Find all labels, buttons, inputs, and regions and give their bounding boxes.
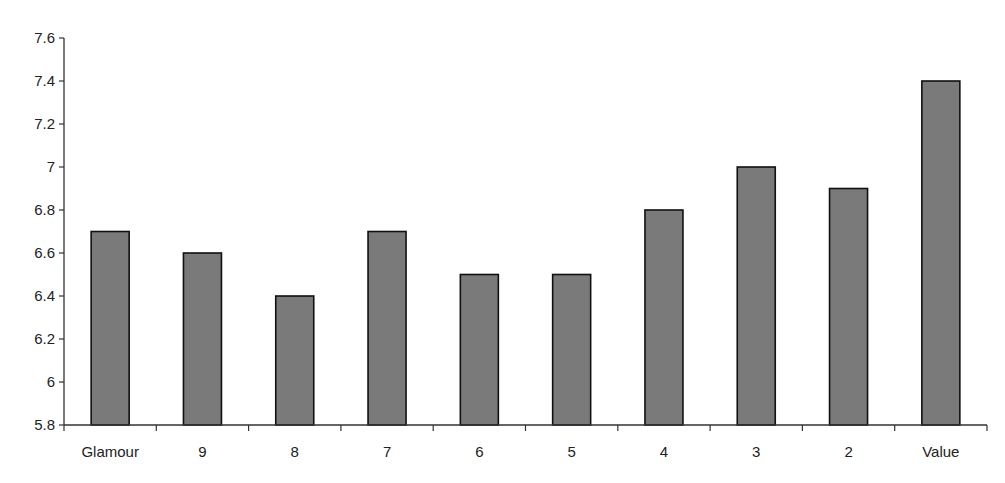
x-tick-label: 9	[198, 443, 206, 460]
bar-value	[922, 81, 960, 425]
bar-6	[460, 275, 498, 426]
x-axis-ticks: Glamour98765432Value	[64, 425, 987, 460]
y-tick-label: 6.8	[34, 201, 55, 218]
y-tick-label: 6	[47, 373, 55, 390]
y-tick-label: 5.8	[34, 416, 55, 433]
y-tick-label: 7.6	[34, 29, 55, 46]
bar-5	[553, 275, 591, 426]
x-tick-label: Glamour	[81, 443, 139, 460]
y-tick-label: 6.4	[34, 287, 55, 304]
bar-glamour	[91, 232, 129, 426]
y-tick-label: 6.2	[34, 330, 55, 347]
bar-3	[737, 167, 775, 425]
bar-9	[183, 253, 221, 425]
bar-2	[830, 189, 868, 426]
x-tick-label: 5	[567, 443, 575, 460]
x-tick-label: Value	[922, 443, 959, 460]
x-tick-label: 4	[660, 443, 668, 460]
x-tick-label: 2	[844, 443, 852, 460]
y-tick-label: 7.4	[34, 72, 55, 89]
bar-8	[276, 296, 314, 425]
bar-4	[645, 210, 683, 425]
y-tick-label: 6.6	[34, 244, 55, 261]
bar-7	[368, 232, 406, 426]
x-tick-label: 8	[291, 443, 299, 460]
y-tick-label: 7	[47, 158, 55, 175]
y-axis-ticks: 5.866.26.46.66.877.27.47.6	[34, 29, 64, 433]
x-tick-label: 7	[383, 443, 391, 460]
x-tick-label: 6	[475, 443, 483, 460]
x-tick-label: 3	[752, 443, 760, 460]
y-tick-label: 7.2	[34, 115, 55, 132]
bars	[91, 81, 960, 425]
bar-chart: 5.866.26.46.66.877.27.47.6 Glamour987654…	[0, 0, 1005, 483]
